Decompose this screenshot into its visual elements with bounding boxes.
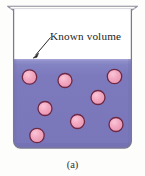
- beaker-figure: Known volume (a): [0, 0, 145, 176]
- liquid-right-shade: [128, 59, 133, 151]
- particle: [30, 128, 44, 142]
- particle: [38, 102, 52, 116]
- particle: [71, 115, 85, 129]
- particle: [58, 74, 72, 88]
- particle: [109, 118, 123, 132]
- liquid-bottom-shade: [12, 143, 133, 151]
- liquid-surface-highlight: [12, 59, 133, 61]
- particle: [107, 69, 121, 83]
- particle: [22, 70, 36, 84]
- liquid-left-shade: [12, 59, 17, 151]
- liquid-surface-line: [12, 61, 133, 62]
- annotation-label: Known volume: [50, 30, 121, 42]
- beaker-diagram-canvas: Known volume (a): [0, 0, 145, 176]
- liquid-group: [12, 59, 133, 151]
- figure-caption: (a): [67, 159, 79, 171]
- particle: [91, 91, 105, 105]
